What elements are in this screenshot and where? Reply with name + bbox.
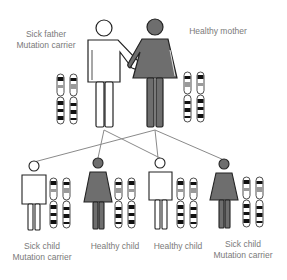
- mother-chromosomes: [184, 72, 204, 122]
- child-2-chromosome-a: [115, 178, 122, 228]
- child-3-figure: [149, 158, 172, 229]
- child-2-chromosome-b: [128, 178, 135, 228]
- line-mother-child-4: [155, 130, 224, 160]
- child-4-chromosome-a: [243, 177, 250, 227]
- child-3-chromosome-b: [190, 178, 197, 228]
- line-mother-child-3: [155, 130, 158, 158]
- child-3-label-line1: Healthy child: [148, 241, 208, 252]
- father-label-line1: Sick father: [16, 29, 76, 40]
- child-1-figure: [22, 161, 46, 230]
- child-4-label-line2: Mutation carrier: [213, 250, 273, 261]
- child-2-label: Healthy child: [85, 241, 145, 252]
- child-3-label: Healthy child: [148, 241, 208, 252]
- child-4-label: Sick child Mutation carrier: [213, 239, 273, 261]
- child-2-figure: [84, 158, 112, 229]
- mother-figure: [128, 19, 177, 127]
- child-1-label-line1: Sick child: [12, 241, 72, 252]
- child-4-label-line1: Sick child: [213, 239, 273, 250]
- father-figure: [88, 20, 141, 127]
- child-3-chromosome-a: [177, 178, 184, 228]
- child-4-chromosome-b: [256, 177, 263, 227]
- mother-label: Healthy mother: [186, 26, 250, 37]
- line-father-child-3: [104, 130, 160, 158]
- child-1-chromosome-a: [50, 178, 57, 228]
- father-label-line2: Mutation carrier: [16, 40, 76, 51]
- child-1-chromosome-b: [63, 178, 70, 228]
- mother-label-line1: Healthy mother: [186, 26, 250, 37]
- child-1-label: Sick child Mutation carrier: [12, 241, 72, 263]
- child-4-figure: [210, 159, 238, 228]
- child-1-label-line2: Mutation carrier: [12, 252, 72, 263]
- inheritance-lines: [34, 130, 224, 162]
- child-2-label-line1: Healthy child: [85, 241, 145, 252]
- father-chromosomes: [57, 74, 77, 124]
- father-label: Sick father Mutation carrier: [16, 29, 76, 51]
